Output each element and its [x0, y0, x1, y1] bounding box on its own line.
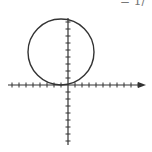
x-axis-arrow-icon	[138, 82, 146, 88]
circle-curve	[28, 19, 94, 85]
curves	[28, 19, 94, 85]
plot-canvas	[0, 0, 152, 152]
